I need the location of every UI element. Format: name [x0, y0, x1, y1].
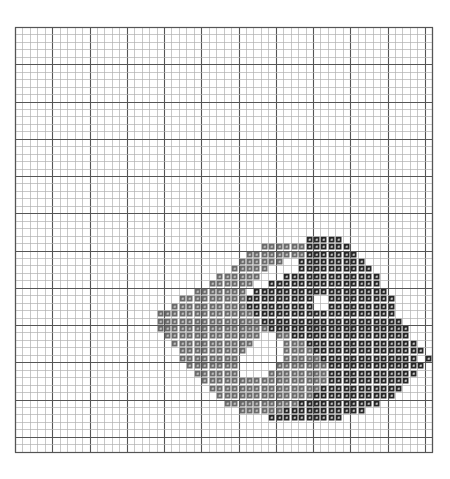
cross-stitch-chart: Cross Stitch Pattern Chart — [0, 0, 450, 479]
pattern-grid-canvas — [0, 0, 450, 479]
